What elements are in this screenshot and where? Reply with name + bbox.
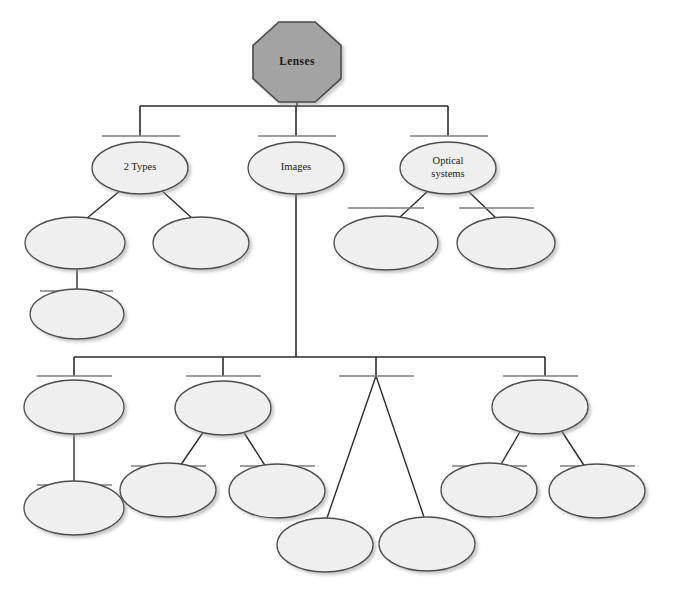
root-node[interactable]: Lenses (253, 22, 341, 102)
ellipse-shape[interactable] (549, 464, 645, 518)
ellipse-shape[interactable] (153, 217, 249, 269)
ellipse-shape[interactable] (175, 381, 271, 435)
blank-concept-node[interactable] (25, 217, 125, 269)
ellipse-shape[interactable] (120, 463, 216, 517)
ellipse-shape[interactable] (277, 518, 373, 572)
ellipse-shape[interactable] (24, 380, 124, 434)
blank-concept-node[interactable] (549, 464, 645, 518)
ellipse-shape[interactable] (229, 464, 325, 518)
concept-node[interactable]: Images (248, 142, 344, 194)
blank-concept-node[interactable] (24, 481, 124, 535)
concept-node-label: Images (281, 161, 311, 172)
concept-node[interactable]: Opticalsystems (400, 142, 496, 194)
blank-concept-node[interactable] (379, 517, 475, 571)
ellipse-shape[interactable] (379, 517, 475, 571)
ellipse-shape[interactable] (24, 481, 124, 535)
concept-node-label: 2 Types (124, 161, 157, 172)
blank-concept-node[interactable] (120, 463, 216, 517)
ellipse-shape[interactable] (441, 463, 537, 517)
blank-concept-node[interactable] (457, 217, 555, 269)
blank-concept-node[interactable] (334, 216, 438, 270)
blank-concept-node[interactable] (441, 463, 537, 517)
concept-node[interactable]: 2 Types (92, 142, 188, 194)
ellipse-shape[interactable] (334, 216, 438, 270)
blank-concept-node[interactable] (30, 289, 124, 339)
concept-map-svg: Lenses2 TypesImagesOpticalsystems (0, 0, 674, 595)
ellipse-shape[interactable] (492, 380, 588, 434)
blank-concept-node[interactable] (492, 380, 588, 434)
blank-concept-node[interactable] (277, 518, 373, 572)
blank-concept-node[interactable] (229, 464, 325, 518)
blank-concept-node[interactable] (175, 381, 271, 435)
blank-concept-node[interactable] (153, 217, 249, 269)
ellipse-shape[interactable] (457, 217, 555, 269)
ellipse-shape[interactable] (25, 217, 125, 269)
blank-concept-node[interactable] (24, 380, 124, 434)
concept-map-canvas: Lenses2 TypesImagesOpticalsystems (0, 0, 674, 595)
root-node-label: Lenses (279, 55, 315, 67)
ellipse-shape[interactable] (30, 289, 124, 339)
